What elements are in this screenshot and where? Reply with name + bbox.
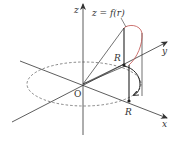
base-circle-dashed [27, 62, 141, 106]
z-axis-label: z [73, 5, 79, 15]
point-r-x [127, 99, 130, 102]
x-axis-label: x [162, 119, 167, 129]
origin-label: O [74, 89, 81, 99]
revolution-diagram: z z = f(r) y x O R R [0, 0, 183, 143]
function-label: z = f(r) [91, 8, 125, 18]
function-leader [121, 18, 126, 27]
y-axis [12, 42, 167, 122]
radius-y-label: R [113, 53, 121, 63]
y-axis-label: y [161, 46, 168, 56]
radius-x-label: R [124, 107, 132, 117]
point-r-y [122, 63, 125, 66]
rotation-arc [124, 66, 140, 95]
surface-curve [124, 25, 142, 65]
